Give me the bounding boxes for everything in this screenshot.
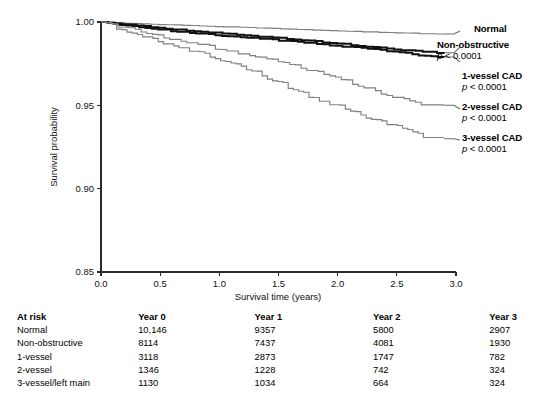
x-axis-title: Survival time (years): [235, 291, 322, 302]
x-tick-label: 0.5: [154, 278, 167, 289]
risk-value: 8114: [138, 336, 254, 349]
legend-label: Non-obstructive: [437, 39, 509, 50]
x-tick-label: 2.5: [390, 278, 403, 289]
risk-value: 1228: [255, 363, 373, 376]
risk-value: 2907: [489, 323, 517, 336]
risk-value: 1130: [138, 376, 254, 389]
risk-value: 3118: [138, 350, 254, 363]
risk-value: 9357: [255, 323, 373, 336]
legend-p-value: p < 0.0001: [462, 143, 522, 154]
legend-p-value: p < 0.0001: [462, 81, 522, 92]
risk-value: 4081: [373, 336, 489, 349]
legend-entry-non-obstructive: Non-obstructivep < 0.0001: [437, 39, 509, 61]
x-tick-label: 1.0: [213, 278, 226, 289]
risk-table-body: Normal10,146935758002907Non-obstructive8…: [17, 323, 517, 389]
leader-line-0: [444, 31, 460, 34]
risk-value: 10,146: [138, 323, 254, 336]
col-header-at-risk: At risk: [17, 310, 138, 323]
survival-curve-figure: 0.850.900.951.00 0.00.51.01.52.02.53.0 S…: [0, 0, 534, 402]
col-header-year-1: Year 1: [255, 310, 373, 323]
x-axis-tick-labels: 0.00.51.01.52.02.53.0: [94, 278, 462, 289]
risk-value: 324: [489, 376, 517, 389]
at-risk-table: At risk Year 0 Year 1 Year 2 Year 3 Norm…: [17, 310, 517, 389]
legend-entry-3-vessel-cad: 3-vessel CADp < 0.0001: [462, 132, 522, 154]
y-tick-label: 0.95: [76, 100, 95, 111]
x-tick-label: 2.0: [331, 278, 344, 289]
table-header-row: At risk Year 0 Year 1 Year 2 Year 3: [17, 310, 517, 323]
risk-value: 782: [489, 350, 517, 363]
legend-entry-normal: Normal: [474, 23, 506, 34]
risk-value: 742: [373, 363, 489, 376]
x-tick-label: 1.5: [272, 278, 285, 289]
legend-label: 3-vessel CAD: [462, 132, 522, 143]
x-tick-label: 3.0: [449, 278, 462, 289]
col-header-year-2: Year 2: [373, 310, 489, 323]
y-tick-label: 0.90: [76, 183, 95, 194]
legend-entry-2-vessel-cad: 2-vessel CADp < 0.0001: [462, 101, 522, 123]
col-header-year-0: Year 0: [138, 310, 254, 323]
table-row: 2-vessel13461228742324: [17, 363, 517, 376]
table-row: Normal10,146935758002907: [17, 323, 517, 336]
x-tick-label: 0.0: [94, 278, 107, 289]
risk-value: 324: [489, 363, 517, 376]
risk-value: 2873: [255, 350, 373, 363]
risk-value: 1346: [138, 363, 254, 376]
y-tick-label: 1.00: [76, 16, 95, 27]
legend-p-value: p < 0.0001: [462, 112, 522, 123]
risk-row-label: 2-vessel: [17, 363, 138, 376]
leader-line-3: [444, 105, 460, 109]
risk-value: 664: [373, 376, 489, 389]
legend-entry-1-vessel-cad: 1-vessel CADp < 0.0001: [462, 70, 522, 92]
survival-curves: [101, 22, 444, 138]
risk-value: 1930: [489, 336, 517, 349]
y-tick-label: 0.85: [76, 266, 95, 277]
legend-label: Normal: [474, 23, 506, 34]
y-axis-tick-labels: 0.850.900.951.00: [76, 16, 95, 277]
risk-value: 7437: [255, 336, 373, 349]
risk-value: 1747: [373, 350, 489, 363]
leader-line-4: [444, 139, 460, 140]
legend-label: 1-vessel CAD: [462, 70, 522, 81]
risk-value: 1034: [255, 376, 373, 389]
risk-row-label: 3-vessel/left main: [17, 376, 138, 389]
col-header-year-3: Year 3: [489, 310, 517, 323]
risk-table-grid: At risk Year 0 Year 1 Year 2 Year 3 Norm…: [17, 310, 517, 389]
curve-1-vessel-cad: [101, 22, 444, 57]
table-row: 1-vessel311828731747782: [17, 350, 517, 363]
risk-row-label: Non-obstructive: [17, 336, 138, 349]
table-row: 3-vessel/left main11301034664324: [17, 376, 517, 389]
legend-p-value: p < 0.0001: [437, 50, 509, 61]
legend-label: 2-vessel CAD: [462, 101, 522, 112]
risk-row-label: 1-vessel: [17, 350, 138, 363]
curve-2-vessel-cad: [101, 22, 444, 105]
risk-row-label: Normal: [17, 323, 138, 336]
risk-value: 5800: [373, 323, 489, 336]
table-row: Non-obstructive8114743740811930: [17, 336, 517, 349]
y-axis-title: Survival probability: [48, 107, 59, 187]
